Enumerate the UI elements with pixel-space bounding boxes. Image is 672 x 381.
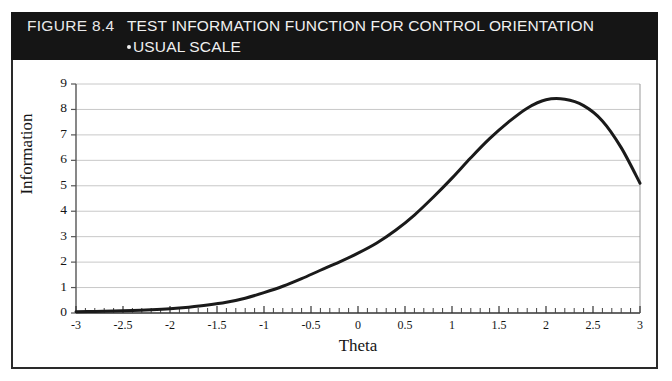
figure-title-text: TEST INFORMATION FUNCTION FOR CONTROL OR… bbox=[127, 17, 594, 35]
plot-frame bbox=[11, 60, 658, 369]
title-line-primary: FIGURE 8.4 TEST INFORMATION FUNCTION FOR… bbox=[11, 17, 658, 39]
figure-number-label: FIGURE 8.4 bbox=[27, 17, 114, 35]
bullet-icon bbox=[127, 45, 131, 49]
title-line-subtitle: USUAL SCALE bbox=[127, 38, 241, 56]
figure-title-banner: FIGURE 8.4 TEST INFORMATION FUNCTION FOR… bbox=[11, 12, 658, 60]
figure-root: FIGURE 8.4 TEST INFORMATION FUNCTION FOR… bbox=[0, 0, 672, 381]
figure-subtitle-text: USUAL SCALE bbox=[133, 38, 241, 55]
